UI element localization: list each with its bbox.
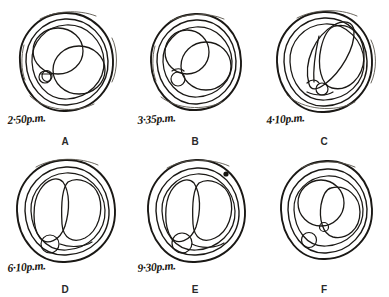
- panel-d-letter: D: [0, 284, 130, 295]
- panel-a: 2·50p.m. A: [0, 0, 130, 148]
- panel-a-letter: A: [0, 136, 130, 147]
- panel-c-letter: C: [259, 136, 389, 147]
- panel-a-drawing: [0, 0, 130, 125]
- panel-c-drawing: [259, 0, 389, 125]
- panel-d: 6·10p.m. D: [0, 148, 130, 296]
- panel-e-letter: E: [130, 284, 260, 295]
- panel-e-drawing: [130, 148, 260, 273]
- panel-f-drawing: [259, 148, 389, 273]
- panel-f: F: [259, 148, 389, 296]
- panel-c: 4·10p.m. C: [259, 0, 389, 148]
- panel-f-letter: F: [259, 284, 389, 295]
- panel-d-drawing: [0, 148, 130, 273]
- panel-b: 3·35p.m. B: [130, 0, 260, 148]
- panel-e: 9·30p.m. E: [130, 148, 260, 296]
- panel-b-drawing: [130, 0, 260, 125]
- panel-b-letter: B: [130, 136, 260, 147]
- figure-plate: 2·50p.m. A 3·35p.m. B: [0, 0, 389, 297]
